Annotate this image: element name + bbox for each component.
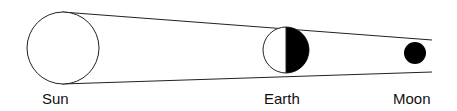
moon-label: Moon [393,90,431,107]
sun-circle [27,12,99,84]
moon-circle [404,42,426,64]
sun-label: Sun [42,90,69,107]
earth-circle [263,27,309,73]
upper-tangent-line [62,12,432,40]
earth-label: Earth [264,90,300,107]
lower-tangent-line [62,72,432,84]
